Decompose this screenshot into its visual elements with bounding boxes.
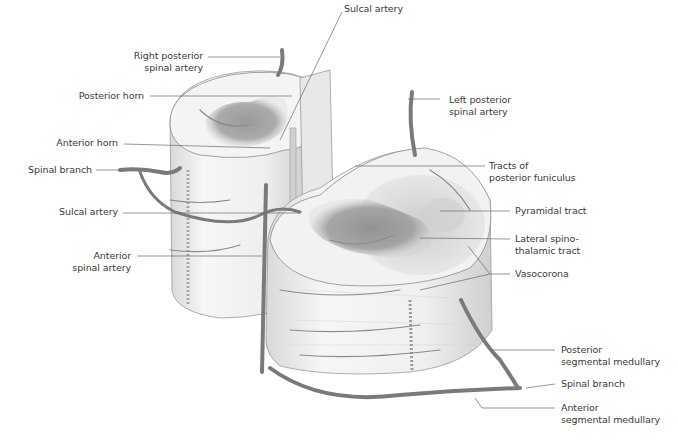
label-line-2: thalamic tract [515,245,580,257]
label-spinal-branch-right: Spinal branch [561,378,625,390]
label-line-1: Left posterior [449,94,511,106]
label-spinal-branch-left: Spinal branch [0,164,92,176]
label-line-2: segmental medullary [561,356,660,368]
label-right-posterior-spinal-artery: Right posterior spinal artery [100,50,203,74]
label-posterior-horn: Posterior horn [40,90,144,102]
label-sulcal-artery-top: Sulcal artery [344,3,403,15]
label-anterior-horn: Anterior horn [20,137,118,149]
label-line-1: Right posterior [100,50,203,62]
label-vasocorona: Vasocorona [515,268,569,280]
label-line-1: Anterior [30,250,131,262]
label-left-posterior-spinal-artery: Left posterior spinal artery [449,94,511,118]
label-line-2: spinal artery [100,62,203,74]
label-lateral-spinothalamic-tract: Lateral spino- thalamic tract [515,233,580,257]
label-tracts-posterior-funiculus: Tracts of posterior funiculus [489,160,576,184]
label-line-2: segmental medullary [561,414,660,426]
label-posterior-segmental-medullary: Posterior segmental medullary [561,344,660,368]
label-line-1: Posterior [561,344,660,356]
label-line-2: spinal artery [30,262,131,274]
label-line-1: Tracts of [489,160,576,172]
spinal-cord-blood-supply-diagram: Sulcal artery Right posterior spinal art… [0,0,678,443]
label-pyramidal-tract: Pyramidal tract [515,205,586,217]
label-line-2: posterior funiculus [489,172,576,184]
label-sulcal-artery-left: Sulcal artery [10,206,118,218]
label-line-1: Anterior [561,402,660,414]
label-line-1: Lateral spino- [515,233,580,245]
label-line-2: spinal artery [449,106,511,118]
label-anterior-spinal-artery: Anterior spinal artery [30,250,131,274]
label-anterior-segmental-medullary: Anterior segmental medullary [561,402,660,426]
